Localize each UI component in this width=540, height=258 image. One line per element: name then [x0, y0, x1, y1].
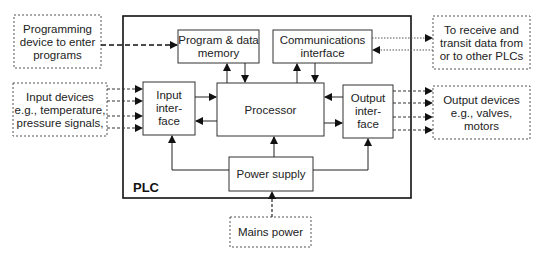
input-devices-block: Input devices e.g., temperature, pressur…: [13, 83, 107, 136]
svg-text:e.g., temperature,: e.g., temperature,: [15, 104, 106, 116]
plc-block-diagram: PLC Programming device to enter programs…: [0, 0, 540, 258]
svg-text:Input: Input: [156, 89, 182, 101]
processor-block: Processor: [217, 83, 324, 136]
input-interface-block: Input inter- face: [143, 82, 195, 135]
svg-text:Input devices: Input devices: [26, 91, 94, 103]
svg-text:Programming: Programming: [23, 23, 92, 35]
svg-text:interface: interface: [300, 47, 344, 59]
svg-text:Processor: Processor: [245, 104, 297, 116]
svg-text:To receive and: To receive and: [444, 24, 519, 36]
svg-text:Program & data: Program & data: [178, 34, 259, 46]
svg-text:face: face: [357, 118, 379, 130]
svg-text:Communications: Communications: [280, 34, 366, 46]
other-plcs-block: To receive and transit data from or to o…: [433, 16, 530, 69]
svg-text:transit data from: transit data from: [440, 37, 523, 49]
mains-power-block: Mains power: [230, 217, 311, 247]
svg-text:or to other PLCs: or to other PLCs: [440, 50, 524, 62]
svg-text:e.g., valves,: e.g., valves,: [451, 107, 512, 119]
svg-text:face: face: [158, 115, 180, 127]
memory-block: Program & data memory: [178, 30, 259, 63]
svg-text:Output devices: Output devices: [443, 94, 520, 106]
programming-device-block: Programming device to enter programs: [14, 15, 101, 68]
power-supply-block: Power supply: [229, 157, 313, 191]
svg-text:memory: memory: [198, 47, 240, 59]
svg-text:inter-: inter-: [355, 105, 381, 117]
svg-text:device to enter: device to enter: [20, 36, 96, 48]
svg-text:Power supply: Power supply: [236, 168, 305, 180]
plc-label: PLC: [133, 180, 160, 195]
output-interface-block: Output inter- face: [343, 85, 393, 138]
svg-text:Mains power: Mains power: [238, 226, 303, 238]
output-devices-block: Output devices e.g., valves, motors: [433, 86, 530, 139]
svg-text:Output: Output: [351, 92, 386, 104]
svg-text:motors: motors: [464, 120, 499, 132]
svg-text:pressure signals,: pressure signals,: [17, 117, 104, 129]
svg-text:inter-: inter-: [156, 102, 182, 114]
communications-interface-block: Communications interface: [273, 30, 372, 63]
svg-text:programs: programs: [33, 49, 82, 61]
